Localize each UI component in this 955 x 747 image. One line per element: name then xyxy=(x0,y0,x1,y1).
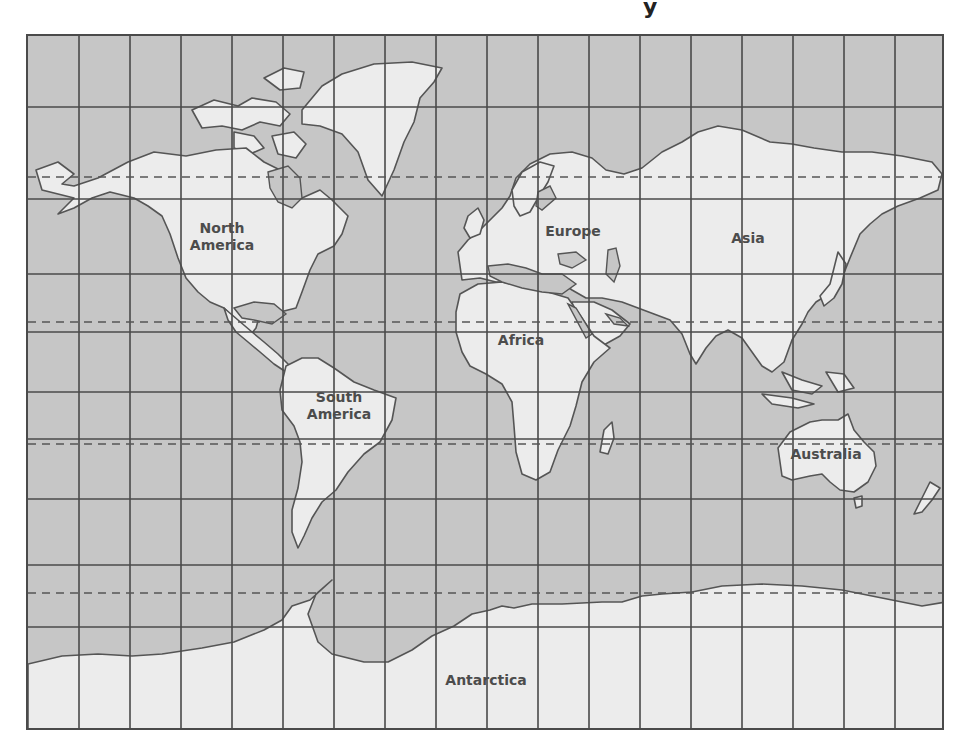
label-north-america-line1: North xyxy=(200,220,245,236)
label-australia: Australia xyxy=(790,446,861,463)
landmasses xyxy=(28,62,944,730)
label-south-america: South America xyxy=(307,389,371,423)
label-north-america: North America xyxy=(190,220,254,254)
southeast-asia-islands xyxy=(782,372,822,394)
arctic-islands xyxy=(192,98,290,130)
label-europe: Europe xyxy=(545,223,601,240)
map-canvas xyxy=(28,36,944,730)
south-america xyxy=(280,358,396,548)
label-africa: Africa xyxy=(498,332,544,349)
greenland xyxy=(302,62,442,196)
world-map xyxy=(26,34,944,730)
map-title-fragment: y xyxy=(643,0,657,19)
madagascar xyxy=(600,422,614,454)
label-south-america-line1: South xyxy=(316,389,362,405)
label-antarctica: Antarctica xyxy=(445,672,526,689)
label-north-america-line2: America xyxy=(190,237,254,253)
new-zealand xyxy=(914,482,940,514)
label-asia: Asia xyxy=(731,230,764,247)
tasmania xyxy=(854,496,862,508)
label-south-america-line2: America xyxy=(307,406,371,422)
antarctica xyxy=(28,580,944,730)
